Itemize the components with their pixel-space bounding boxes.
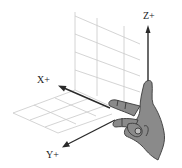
floor-grid-plane (13, 90, 112, 133)
x-axis (58, 86, 110, 109)
z-arrowhead-icon (146, 25, 151, 33)
y-axis (62, 120, 115, 148)
z-axis-label: Z+ (143, 10, 155, 21)
right-hand-icon (109, 80, 165, 160)
z-axis (146, 25, 151, 82)
coordinate-diagram: Z+ X+ Y+ (0, 0, 182, 168)
x-axis-label: X+ (37, 74, 50, 85)
y-axis-label: Y+ (46, 149, 59, 160)
x-arrowhead-icon (58, 86, 67, 92)
vertical-grid-plane (75, 12, 140, 104)
